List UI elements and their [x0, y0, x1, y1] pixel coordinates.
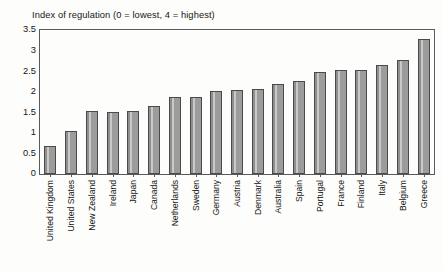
- x-axis-tick: United States: [61, 176, 82, 271]
- bar-slot: [123, 30, 144, 174]
- bar-slot: [206, 30, 227, 174]
- x-axis-tick-mark: [320, 174, 321, 177]
- bar[interactable]: [397, 60, 409, 174]
- bar-chart-figure: Index of regulation (0 = lowest, 4 = hig…: [0, 0, 443, 271]
- bar-slot: [227, 30, 248, 174]
- x-axis-tick-mark: [403, 174, 404, 177]
- bar[interactable]: [148, 106, 160, 174]
- bar[interactable]: [252, 89, 264, 174]
- x-axis-tick: Finland: [351, 176, 372, 271]
- bar-slot: [61, 30, 82, 174]
- x-axis-tick-label: Japan: [129, 180, 138, 203]
- x-axis-tick-label: New Zealand: [88, 180, 97, 231]
- bar-slot: [372, 30, 393, 174]
- x-axis-tick-label: Spain: [295, 180, 304, 202]
- x-axis-tick-mark: [278, 174, 279, 177]
- x-axis-tick: Austria: [227, 176, 248, 271]
- x-axis-tick-label: Portugal: [316, 180, 325, 212]
- bar-slot: [330, 30, 351, 174]
- y-axis-tick-label: 1: [31, 128, 39, 137]
- x-axis-tick-label: Australia: [274, 180, 283, 213]
- x-axis-tick-label: Austria: [233, 180, 242, 207]
- bar[interactable]: [231, 90, 243, 174]
- x-axis-tick: Germany: [206, 176, 227, 271]
- bar[interactable]: [335, 70, 347, 174]
- x-axis-tick-label: Netherlands: [170, 180, 179, 226]
- bar-slot: [393, 30, 414, 174]
- x-axis-tick-label: United Kingdom: [46, 180, 55, 241]
- bar[interactable]: [86, 111, 98, 174]
- x-axis-tick-mark: [341, 174, 342, 177]
- bar[interactable]: [169, 97, 181, 174]
- bar[interactable]: [293, 81, 305, 174]
- bar-slot: [310, 30, 331, 174]
- x-axis-tick: Canada: [144, 176, 165, 271]
- bar[interactable]: [190, 97, 202, 174]
- x-axis-tick-label: Ireland: [108, 180, 117, 206]
- x-axis-tick: France: [330, 176, 351, 271]
- bar-slot: [247, 30, 268, 174]
- x-axis-tick-mark: [113, 174, 114, 177]
- y-axis-tick-label: 0.5: [23, 149, 39, 158]
- x-axis-tick: Japan: [123, 176, 144, 271]
- x-axis-tick-mark: [237, 174, 238, 177]
- x-axis-tick: Ireland: [102, 176, 123, 271]
- bar-slot: [351, 30, 372, 174]
- x-axis-tick: Netherlands: [164, 176, 185, 271]
- bar-slot: [144, 30, 165, 174]
- x-axis-tick-label: Denmark: [253, 180, 262, 215]
- bar-slot: [185, 30, 206, 174]
- bar[interactable]: [65, 131, 77, 174]
- bar-slot: [413, 30, 434, 174]
- x-axis-tick-label: Germany: [212, 180, 221, 215]
- bar-slot: [102, 30, 123, 174]
- x-axis-tick: New Zealand: [81, 176, 102, 271]
- y-axis-tick-label: 2: [31, 87, 39, 96]
- bar[interactable]: [127, 111, 139, 174]
- x-axis-tick: United Kingdom: [40, 176, 61, 271]
- x-axis-tick: Spain: [289, 176, 310, 271]
- x-axis-tick: Australia: [268, 176, 289, 271]
- y-axis-tick-label: 1.5: [23, 108, 39, 117]
- bar[interactable]: [272, 84, 284, 175]
- x-axis-tick-label: Greece: [419, 180, 428, 208]
- bars-layer: [40, 30, 434, 174]
- bar[interactable]: [418, 39, 430, 174]
- x-axis: United KingdomUnited StatesNew ZealandIr…: [40, 176, 434, 271]
- x-axis-tick: Italy: [372, 176, 393, 271]
- x-axis-tick-mark: [133, 174, 134, 177]
- y-axis: 00.511.522.533.5: [0, 29, 39, 175]
- x-axis-tick-mark: [299, 174, 300, 177]
- bar[interactable]: [107, 112, 119, 174]
- y-axis-tick-label: 3: [31, 46, 39, 55]
- x-axis-tick-label: France: [336, 180, 345, 207]
- x-axis-tick-mark: [382, 174, 383, 177]
- y-axis-tick-label: 3.5: [23, 25, 39, 34]
- y-axis-tick-label: 0: [31, 169, 39, 178]
- x-axis-tick: Greece: [413, 176, 434, 271]
- x-axis-tick-label: Sweden: [191, 180, 200, 211]
- x-axis-tick-mark: [258, 174, 259, 177]
- x-axis-tick-label: Finland: [357, 180, 366, 208]
- bar-slot: [40, 30, 61, 174]
- x-axis-tick-mark: [154, 174, 155, 177]
- x-axis-tick-mark: [71, 174, 72, 177]
- y-axis-tick-label: 2.5: [23, 67, 39, 76]
- bar[interactable]: [44, 146, 56, 174]
- x-axis-tick-label: United States: [67, 180, 76, 232]
- x-axis-tick: Sweden: [185, 176, 206, 271]
- bar-slot: [289, 30, 310, 174]
- x-axis-tick-label: Belgium: [399, 180, 408, 211]
- x-axis-tick-label: Italy: [378, 180, 387, 196]
- bar-slot: [164, 30, 185, 174]
- bar[interactable]: [210, 91, 222, 174]
- x-axis-tick-mark: [196, 174, 197, 177]
- x-axis-tick-mark: [361, 174, 362, 177]
- bar[interactable]: [355, 70, 367, 174]
- bar[interactable]: [314, 72, 326, 174]
- x-axis-tick: Portugal: [310, 176, 331, 271]
- x-axis-tick: Denmark: [247, 176, 268, 271]
- bar-slot: [268, 30, 289, 174]
- bar-slot: [81, 30, 102, 174]
- bar[interactable]: [376, 65, 388, 174]
